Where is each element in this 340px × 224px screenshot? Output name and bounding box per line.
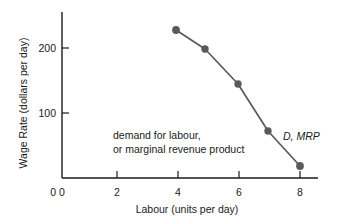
data-point: [201, 45, 208, 52]
y-tick-label-0: 0: [30, 186, 56, 198]
curve-annotation: demand for labour, or marginal revenue p…: [113, 128, 244, 156]
x-axis-ticks: [117, 171, 300, 178]
series-label: D, MRP: [283, 130, 320, 142]
data-point: [172, 26, 180, 34]
x-tick-label-0: 0: [59, 186, 65, 198]
curve-annotation-line-2: or marginal revenue product: [113, 142, 244, 156]
y-tick-label-200: 200: [30, 42, 56, 54]
curve-annotation-line-1: demand for labour,: [113, 128, 244, 142]
data-point: [234, 80, 241, 87]
x-tick-label-4: 4: [175, 186, 181, 198]
x-tick-label-2: 2: [114, 186, 120, 198]
data-point: [264, 127, 271, 134]
y-axis-title: Wage Rate (dollars per day): [17, 18, 29, 188]
y-tick-label-100: 100: [30, 107, 56, 119]
x-tick-label-8: 8: [297, 186, 303, 198]
y-axis-ticks: [62, 48, 69, 113]
x-axis-title: Labour (units per day): [62, 203, 312, 215]
chart-figure: 200 100 0 0 2 4 6 8 Wage Rate (dollars p…: [0, 0, 340, 224]
x-tick-label-6: 6: [236, 186, 242, 198]
data-point: [296, 162, 304, 170]
